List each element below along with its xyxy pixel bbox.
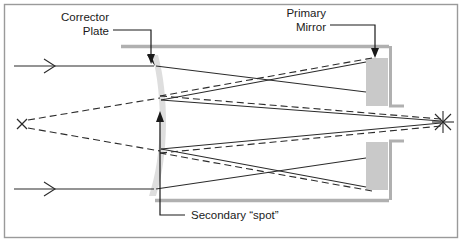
label-corrector-plate-line1: Corrector [61, 11, 109, 23]
diagram-canvas: Corrector Plate Primary Mirror Secondary… [0, 0, 462, 242]
label-secondary-spot: Secondary “spot” [191, 209, 279, 221]
figure-border [5, 5, 458, 238]
optical-diagram-figure: Corrector Plate Primary Mirror Secondary… [0, 0, 462, 242]
label-primary-mirror-line1: Primary [286, 7, 326, 19]
label-primary-mirror-line2: Mirror [296, 21, 326, 33]
focal-point-starburst [432, 111, 454, 133]
primary-mirror-upper [366, 58, 388, 106]
label-corrector-plate-line2: Plate [83, 25, 109, 37]
primary-mirror-lower [366, 142, 388, 190]
